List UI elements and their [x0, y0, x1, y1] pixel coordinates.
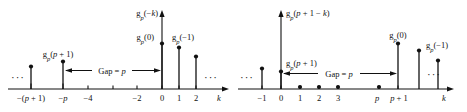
left-tick-label: −4 [83, 93, 93, 103]
left-tick-label: −2 [132, 93, 141, 103]
left-x-axis-label: k [217, 93, 221, 103]
right-tick-label: −1 [257, 93, 266, 103]
stem-head [436, 58, 440, 62]
left-y-axis-label: gp(−k) [136, 8, 158, 21]
left-tick-label: 0 [160, 93, 164, 103]
right-tick-label: p + 1 [389, 93, 408, 103]
left-tick-label: −(p + 1) [17, 93, 45, 103]
stem-head [160, 41, 164, 45]
left-x-axis-arrowhead [222, 86, 229, 91]
gap-arrow-head-right [390, 71, 397, 76]
right-tick-label: 3 [336, 93, 340, 103]
left-point-label-gp-0: gp(0) [137, 32, 155, 45]
right-tick-label: 0 [279, 93, 283, 103]
left-tick-label: 2 [194, 93, 198, 103]
right-x-axis-label: k [442, 93, 446, 103]
left-gap-annotation: Gap = p [65, 65, 161, 76]
gap-arrow-head-left [65, 68, 72, 73]
right-y-axis-label: gp(p + 1 − k) [286, 8, 330, 21]
stem-head-zero [377, 85, 381, 89]
right-point-label-gp-0: gp(0) [389, 30, 407, 43]
left-point-label-gp-minus-1: gp(−1) [172, 32, 194, 45]
stem-head-zero [317, 85, 321, 89]
stem-head [61, 59, 65, 63]
stem-head-zero [298, 85, 302, 89]
right-point-label-gp-minus-1: gp(−1) [426, 40, 448, 53]
right-tick-label: 1 [298, 93, 302, 103]
figure-stem-plot-pair: Gap = p gp(p + 1) gp(0) gp(−1) gp(−k) k … [0, 0, 467, 112]
right-tick-label: 2 [317, 93, 321, 103]
right-x-axis-arrowhead [447, 86, 454, 91]
stem-head [260, 66, 264, 70]
right-point-label-gp-p-plus-1: gp(p + 1) [286, 58, 317, 71]
right-y-axis-arrowhead [278, 10, 283, 17]
gap-arrow-head-left [283, 71, 290, 76]
left-plot: Gap = p gp(p + 1) gp(0) gp(−1) gp(−k) k … [8, 8, 229, 103]
right-gap-annotation: Gap = p [283, 68, 397, 79]
left-tick-label: 1 [177, 93, 181, 103]
stem-head [29, 64, 33, 68]
left-point-label-gp-p-plus-1: gp(p + 1) [43, 49, 74, 62]
left-y-axis-arrowhead [159, 10, 164, 17]
right-ellipsis-end: ··· [427, 68, 441, 80]
stem-head-zero [336, 85, 340, 89]
left-ellipsis-start: ··· [11, 71, 25, 83]
left-tick-label: −p [58, 93, 67, 103]
gap-arrow-head-right [154, 68, 161, 73]
right-gap-label: Gap = p [325, 69, 352, 79]
stem-head [194, 54, 198, 58]
stem-head [177, 45, 181, 49]
stem-head [279, 69, 283, 73]
left-gap-label: Gap = p [98, 66, 125, 76]
right-tick-label: p [374, 93, 379, 103]
right-plot: Gap = p gp(p + 1) gp(0) gp(−1) gp(p + 1 … [238, 8, 454, 103]
stem-plot-svg: Gap = p gp(p + 1) gp(0) gp(−1) gp(−k) k … [0, 0, 467, 112]
right-ellipsis-start: ··· [240, 71, 254, 83]
stem-head [417, 48, 421, 52]
left-ellipsis-end: ··· [204, 71, 218, 83]
